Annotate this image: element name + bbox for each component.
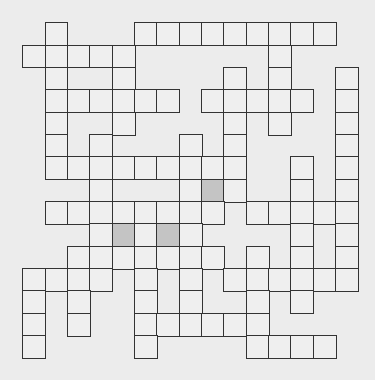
grid-cell[interactable] — [134, 22, 158, 46]
grid-cell[interactable] — [89, 134, 113, 158]
grid-cell[interactable] — [201, 89, 225, 113]
grid-cell[interactable] — [268, 112, 292, 136]
grid-cell[interactable] — [134, 268, 158, 292]
grid-cell[interactable] — [45, 45, 69, 69]
grid-cell[interactable] — [179, 268, 203, 292]
grid-cell[interactable] — [290, 223, 314, 247]
grid-cell[interactable] — [335, 112, 359, 136]
grid-cell[interactable] — [112, 89, 136, 113]
grid-cell[interactable] — [134, 290, 158, 314]
grid-cell[interactable] — [313, 22, 337, 46]
grid-cell[interactable] — [223, 112, 247, 136]
grid-cell[interactable] — [223, 67, 247, 91]
grid-cell[interactable] — [246, 290, 270, 314]
grid-cell[interactable] — [89, 246, 113, 270]
grid-cell[interactable] — [156, 246, 180, 270]
grid-cell[interactable] — [156, 22, 180, 46]
grid-cell[interactable] — [22, 45, 46, 69]
grid-cell[interactable] — [223, 268, 247, 292]
grid-cell[interactable] — [67, 290, 91, 314]
grid-cell[interactable] — [246, 313, 270, 337]
grid-cell[interactable] — [89, 179, 113, 203]
grid-cell[interactable] — [335, 201, 359, 225]
grid-cell[interactable] — [179, 22, 203, 46]
grid-cell[interactable] — [268, 268, 292, 292]
grid-cell[interactable] — [112, 246, 136, 270]
grid-cell[interactable] — [223, 22, 247, 46]
grid-cell[interactable] — [290, 246, 314, 270]
grid-cell[interactable] — [335, 179, 359, 203]
grid-cell[interactable] — [89, 223, 113, 247]
grid-cell[interactable] — [223, 156, 247, 180]
grid-cell[interactable] — [335, 246, 359, 270]
grid-cell[interactable] — [89, 89, 113, 113]
grid-cell[interactable] — [112, 45, 136, 69]
grid-cell[interactable] — [45, 156, 69, 180]
grid-cell[interactable] — [268, 335, 292, 359]
grid-cell[interactable] — [290, 335, 314, 359]
shaded-grid-cell[interactable] — [201, 179, 225, 203]
grid-cell[interactable] — [156, 156, 180, 180]
grid-cell[interactable] — [45, 268, 69, 292]
grid-cell[interactable] — [134, 156, 158, 180]
grid-cell[interactable] — [290, 179, 314, 203]
grid-cell[interactable] — [223, 134, 247, 158]
grid-cell[interactable] — [89, 45, 113, 69]
grid-cell[interactable] — [67, 313, 91, 337]
grid-cell[interactable] — [45, 134, 69, 158]
grid-cell[interactable] — [201, 201, 225, 225]
grid-cell[interactable] — [223, 313, 247, 337]
grid-cell[interactable] — [290, 22, 314, 46]
grid-cell[interactable] — [201, 313, 225, 337]
grid-cell[interactable] — [201, 22, 225, 46]
grid-cell[interactable] — [246, 201, 270, 225]
grid-cell[interactable] — [22, 313, 46, 337]
grid-cell[interactable] — [22, 290, 46, 314]
grid-cell[interactable] — [45, 22, 69, 46]
grid-cell[interactable] — [223, 179, 247, 203]
grid-cell[interactable] — [290, 201, 314, 225]
grid-cell[interactable] — [335, 67, 359, 91]
grid-cell[interactable] — [134, 223, 158, 247]
grid-cell[interactable] — [179, 246, 203, 270]
grid-cell[interactable] — [268, 45, 292, 69]
grid-cell[interactable] — [268, 201, 292, 225]
grid-cell[interactable] — [45, 89, 69, 113]
grid-cell[interactable] — [246, 22, 270, 46]
grid-cell[interactable] — [313, 201, 337, 225]
grid-cell[interactable] — [89, 156, 113, 180]
grid-cell[interactable] — [67, 246, 91, 270]
grid-cell[interactable] — [67, 156, 91, 180]
grid-cell[interactable] — [67, 89, 91, 113]
grid-cell[interactable] — [67, 201, 91, 225]
grid-cell[interactable] — [67, 45, 91, 69]
grid-cell[interactable] — [112, 112, 136, 136]
grid-cell[interactable] — [335, 89, 359, 113]
grid-cell[interactable] — [290, 290, 314, 314]
grid-cell[interactable] — [335, 223, 359, 247]
grid-cell[interactable] — [246, 89, 270, 113]
grid-cell[interactable] — [156, 201, 180, 225]
grid-cell[interactable] — [179, 313, 203, 337]
grid-cell[interactable] — [179, 179, 203, 203]
grid-cell[interactable] — [246, 335, 270, 359]
grid-cell[interactable] — [89, 268, 113, 292]
grid-cell[interactable] — [112, 67, 136, 91]
grid-cell[interactable] — [335, 268, 359, 292]
grid-cell[interactable] — [290, 156, 314, 180]
grid-cell[interactable] — [134, 246, 158, 270]
grid-cell[interactable] — [134, 313, 158, 337]
grid-cell[interactable] — [201, 246, 225, 270]
shaded-grid-cell[interactable] — [156, 223, 180, 247]
grid-cell[interactable] — [156, 313, 180, 337]
grid-cell[interactable] — [134, 335, 158, 359]
grid-cell[interactable] — [179, 223, 203, 247]
grid-cell[interactable] — [268, 89, 292, 113]
grid-cell[interactable] — [134, 89, 158, 113]
grid-cell[interactable] — [112, 156, 136, 180]
grid-cell[interactable] — [89, 201, 113, 225]
grid-cell[interactable] — [223, 89, 247, 113]
grid-cell[interactable] — [335, 156, 359, 180]
grid-cell[interactable] — [179, 156, 203, 180]
grid-cell[interactable] — [246, 246, 270, 270]
